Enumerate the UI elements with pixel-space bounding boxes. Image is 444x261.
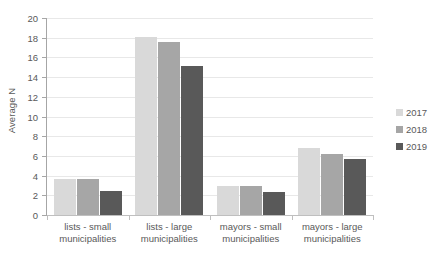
x-category-label-line1: lists - large bbox=[146, 221, 192, 232]
y-tick-label: 6 bbox=[33, 150, 38, 161]
y-tick-mark bbox=[42, 57, 46, 58]
x-category-label: mayors - largemunicipalities bbox=[292, 221, 374, 245]
bar-2017[interactable] bbox=[217, 186, 239, 215]
x-tick-mark bbox=[47, 215, 48, 220]
y-tick-mark bbox=[42, 136, 46, 137]
y-tick-label: 16 bbox=[27, 52, 38, 63]
bar-group bbox=[210, 18, 292, 215]
x-category-label-line2: municipalities bbox=[210, 233, 292, 245]
bar-2019[interactable] bbox=[181, 66, 203, 215]
x-category-label-line1: mayors - small bbox=[220, 221, 282, 232]
legend-swatch-icon bbox=[396, 143, 403, 150]
y-tick-mark bbox=[42, 117, 46, 118]
bar-group bbox=[292, 18, 374, 215]
x-category-label: lists - largemunicipalities bbox=[129, 221, 211, 245]
x-category-label-line2: municipalities bbox=[292, 233, 374, 245]
legend-item-2019[interactable]: 2019 bbox=[396, 138, 444, 155]
y-tick-mark bbox=[42, 97, 46, 98]
y-axis-tick-labels: 20181614121086420 bbox=[20, 18, 42, 215]
legend-swatch-icon bbox=[396, 126, 403, 133]
bars-layer bbox=[47, 18, 373, 215]
x-tick-mark bbox=[210, 215, 211, 220]
y-tick-label: 14 bbox=[27, 72, 38, 83]
bar-2017[interactable] bbox=[135, 37, 157, 215]
y-tick-mark bbox=[42, 156, 46, 157]
x-tick-mark bbox=[373, 215, 374, 220]
y-tick-mark bbox=[42, 176, 46, 177]
bar-2019[interactable] bbox=[263, 192, 285, 215]
x-axis-category-labels: lists - smallmunicipalitieslists - large… bbox=[47, 221, 373, 245]
x-category-label-line1: mayors - large bbox=[302, 221, 363, 232]
x-tick-mark bbox=[292, 215, 293, 220]
y-axis-title: Average N bbox=[2, 0, 22, 220]
bar-2018[interactable] bbox=[321, 154, 343, 215]
y-tick-label: 0 bbox=[33, 210, 38, 221]
bar-2018[interactable] bbox=[77, 179, 99, 215]
legend-item-2018[interactable]: 2018 bbox=[396, 121, 444, 138]
bar-2017[interactable] bbox=[298, 148, 320, 215]
bar-group bbox=[129, 18, 211, 215]
bar-2019[interactable] bbox=[344, 159, 366, 215]
plot-area bbox=[47, 18, 373, 215]
bar-2017[interactable] bbox=[54, 179, 76, 215]
bar-chart: Average N 20181614121086420 lists - smal… bbox=[0, 0, 444, 261]
legend-swatch-icon bbox=[396, 109, 403, 116]
legend-item-2017[interactable]: 2017 bbox=[396, 104, 444, 121]
y-tick-label: 10 bbox=[27, 111, 38, 122]
y-tick-mark bbox=[42, 195, 46, 196]
bar-group bbox=[47, 18, 129, 215]
legend-label: 2019 bbox=[406, 141, 427, 152]
y-tick-mark bbox=[42, 38, 46, 39]
y-tick-label: 2 bbox=[33, 190, 38, 201]
chart-legend: 201720182019 bbox=[396, 104, 444, 155]
bar-2018[interactable] bbox=[240, 186, 262, 215]
bar-2019[interactable] bbox=[100, 191, 122, 215]
x-category-label-line2: municipalities bbox=[129, 233, 211, 245]
x-category-label-line2: municipalities bbox=[47, 233, 129, 245]
y-tick-label: 4 bbox=[33, 170, 38, 181]
y-tick-mark bbox=[42, 18, 46, 19]
legend-label: 2018 bbox=[406, 124, 427, 135]
y-axis-title-text: Average N bbox=[7, 87, 18, 133]
y-tick-mark bbox=[42, 77, 46, 78]
y-tick-mark bbox=[42, 215, 46, 216]
x-tick-mark bbox=[129, 215, 130, 220]
bar-2018[interactable] bbox=[158, 42, 180, 215]
x-category-label-line1: lists - small bbox=[64, 221, 111, 232]
y-tick-label: 12 bbox=[27, 91, 38, 102]
x-category-label: mayors - smallmunicipalities bbox=[210, 221, 292, 245]
y-tick-label: 18 bbox=[27, 32, 38, 43]
y-tick-label: 20 bbox=[27, 13, 38, 24]
x-category-label: lists - smallmunicipalities bbox=[47, 221, 129, 245]
legend-label: 2017 bbox=[406, 107, 427, 118]
y-tick-label: 8 bbox=[33, 131, 38, 142]
